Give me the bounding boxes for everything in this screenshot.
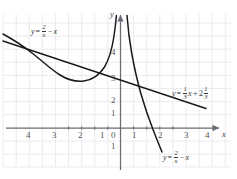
eq-tl-fraction: 2x <box>42 24 47 38</box>
x-tick-neg-1: 1 <box>100 131 105 140</box>
eq-tl-y: y <box>31 27 35 36</box>
y-axis-label: y <box>110 10 114 19</box>
eq-br-equals: = <box>168 153 173 162</box>
graph-figure: y x 0 4 3 2 1 1 2 3 4 4 3 2 1 1 y=2x−x y… <box>0 0 237 179</box>
y-axis-arrow <box>117 15 123 22</box>
x-axis-arrow <box>213 125 220 131</box>
curve-left-branch <box>3 16 116 82</box>
y-tick-pos-2: 2 <box>111 96 116 105</box>
x-tick-neg-4: 4 <box>26 131 31 140</box>
eq-br-fraction: 2x <box>174 150 179 164</box>
origin-tick-label: 0 <box>111 131 116 140</box>
x-tick-neg-2: 2 <box>78 131 83 140</box>
y-tick-pos-3: 3 <box>111 74 116 83</box>
eq-ln-mixed-number: 213 <box>199 86 209 100</box>
eq-tl-equals: = <box>36 27 41 36</box>
equation-label-curve-top-left: y=2x−x <box>31 24 57 38</box>
eq-ln-slope-fraction: 13 <box>183 86 188 100</box>
eq-br-denominator: x <box>174 158 179 165</box>
eq-ln-plus: + <box>193 89 198 98</box>
eq-ln-equals: = <box>177 89 182 98</box>
equation-label-line: y=13x+213 <box>172 86 209 100</box>
x-tick-pos-3: 3 <box>184 131 189 140</box>
eq-tl-variable: x <box>53 27 57 36</box>
x-tick-neg-3: 3 <box>52 131 57 140</box>
eq-ln-variable: x <box>188 89 192 98</box>
x-tick-pos-2: 2 <box>158 131 163 140</box>
eq-ln-const-fraction: 13 <box>204 86 209 100</box>
eq-br-y: y <box>163 153 167 162</box>
x-axis-label: x <box>222 130 226 139</box>
y-tick-pos-1: 1 <box>111 109 116 118</box>
y-tick-pos-4: 4 <box>111 48 116 57</box>
eq-br-variable: x <box>185 153 189 162</box>
eq-tl-denominator: x <box>42 32 47 39</box>
eq-ln-whole: 2 <box>199 89 203 98</box>
eq-tl-minus: − <box>48 27 53 36</box>
eq-br-minus: − <box>180 153 185 162</box>
eq-ln-y: y <box>172 89 176 98</box>
eq-ln-const-denominator: 3 <box>204 94 209 101</box>
y-tick-neg-1: 1 <box>111 142 116 151</box>
eq-ln-slope-denominator: 3 <box>183 94 188 101</box>
equation-label-curve-bottom-right: y=2x−x <box>163 150 189 164</box>
x-tick-pos-1: 1 <box>132 131 137 140</box>
x-tick-pos-4: 4 <box>205 131 210 140</box>
